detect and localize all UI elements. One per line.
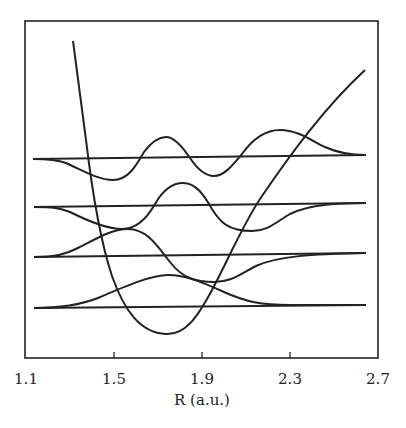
x-tick-label-4: 2.3	[278, 370, 302, 388]
x-tick-label-2: 1.5	[102, 370, 126, 388]
chart-plot-area	[0, 0, 406, 428]
x-tick-label-3: 1.9	[190, 370, 214, 388]
x-axis-title: R (a.u.)	[174, 391, 230, 409]
level-3-line	[33, 155, 366, 159]
energy-levels	[33, 155, 366, 308]
x-tick-label-5: 2.7	[366, 370, 390, 388]
x-tick-label-1: 1.1	[14, 370, 38, 388]
x-axis-ticks	[114, 352, 290, 358]
